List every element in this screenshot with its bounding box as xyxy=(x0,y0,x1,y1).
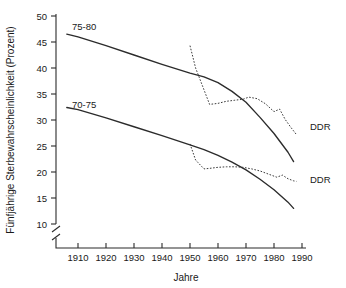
x-tick-label: 1930 xyxy=(123,252,144,263)
x-tick-label: 1990 xyxy=(291,252,312,263)
y-tick-label: 50 xyxy=(36,11,47,22)
x-tick-labels: 1910 1920 1930 1940 1950 1960 1970 1980 … xyxy=(67,252,312,263)
y-tick-label: 35 xyxy=(36,89,47,100)
y-tick-label: 10 xyxy=(36,219,47,230)
series-line-70-75-trend xyxy=(67,108,294,209)
series-group xyxy=(67,34,297,208)
y-tick-label: 40 xyxy=(36,63,47,74)
y-tick-label: 20 xyxy=(36,167,47,178)
y-tick-label: 30 xyxy=(36,115,47,126)
y-axis-title: Fünfjährige Sterbewahrscheinlichkeit (Pr… xyxy=(5,26,16,233)
x-tick-label: 1950 xyxy=(179,252,200,263)
line-chart: 50 45 40 35 30 25 20 15 10 1910 1920 19 xyxy=(0,0,346,288)
annotation-ddr-lower: DDR xyxy=(310,174,331,185)
x-tick-marks xyxy=(78,243,302,248)
y-tick-marks xyxy=(51,16,56,224)
chart-container: 50 45 40 35 30 25 20 15 10 1910 1920 19 xyxy=(0,0,346,288)
y-axis-break-upper xyxy=(52,226,60,232)
y-tick-label: 45 xyxy=(36,37,47,48)
x-tick-label: 1920 xyxy=(95,252,116,263)
series-line-70-75-ddr xyxy=(190,144,296,181)
series-label-70-75: 70-75 xyxy=(72,99,96,110)
x-tick-label: 1910 xyxy=(67,252,88,263)
series-line-75-80-trend xyxy=(67,34,294,161)
y-tick-label: 25 xyxy=(36,141,47,152)
x-axis-line xyxy=(56,238,306,248)
x-tick-label: 1980 xyxy=(263,252,284,263)
series-label-75-80: 75-80 xyxy=(72,21,96,32)
x-tick-label: 1940 xyxy=(151,252,172,263)
x-axis-title: Jahre xyxy=(173,272,198,283)
annotation-ddr-upper: DDR xyxy=(310,121,331,132)
y-tick-label: 15 xyxy=(36,193,47,204)
y-tick-labels: 50 45 40 35 30 25 20 15 10 xyxy=(36,11,47,230)
x-tick-label: 1970 xyxy=(235,252,256,263)
x-tick-label: 1960 xyxy=(207,252,228,263)
series-line-75-80-ddr xyxy=(190,46,296,135)
